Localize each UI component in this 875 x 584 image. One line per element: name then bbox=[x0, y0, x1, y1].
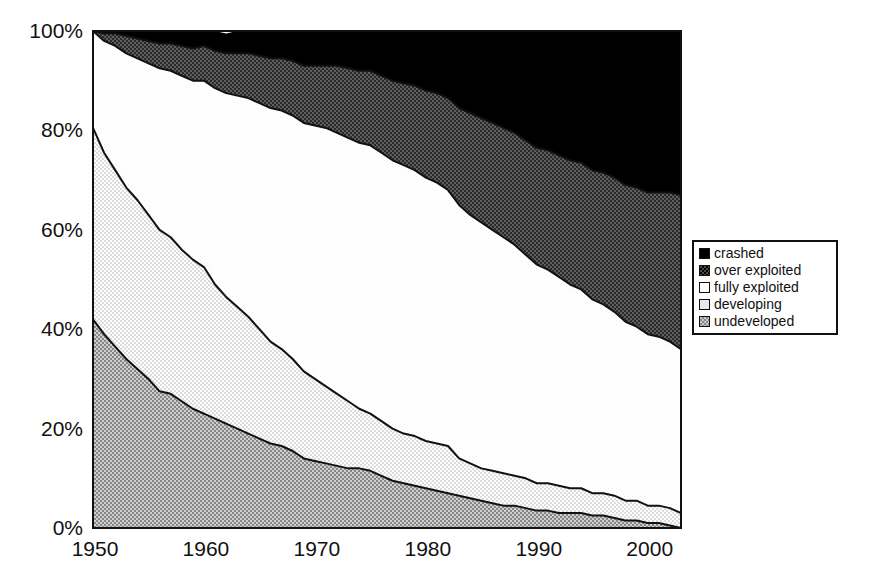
legend-label: crashed bbox=[714, 246, 764, 261]
legend-label: over exploited bbox=[714, 263, 801, 278]
legend-label: developing bbox=[714, 297, 782, 312]
x-axis-tick-label: 1980 bbox=[404, 537, 451, 560]
x-axis-tick-label: 2000 bbox=[626, 537, 673, 560]
y-axis-tick-label: 60% bbox=[41, 218, 83, 241]
area-series-group bbox=[93, 29, 681, 528]
x-axis-tick-label: 1970 bbox=[294, 537, 341, 560]
legend-swatch-over-exploited bbox=[699, 265, 710, 276]
legend-swatch-developing bbox=[699, 299, 710, 310]
legend-label: fully exploited bbox=[714, 280, 799, 295]
y-axis-tick-labels: 0%20%40%60%80%100% bbox=[29, 19, 83, 539]
x-axis-tick-label: 1950 bbox=[72, 537, 119, 560]
y-axis-tick-label: 20% bbox=[41, 417, 83, 440]
y-axis-tick-label: 100% bbox=[29, 19, 83, 42]
chart-legend: crashed over exploited fully exploited d… bbox=[692, 240, 838, 335]
legend-swatch-crashed bbox=[699, 248, 710, 259]
x-axis-tick-label: 1960 bbox=[183, 537, 230, 560]
legend-item[interactable]: developing bbox=[699, 296, 832, 313]
legend-label: undeveloped bbox=[714, 314, 794, 329]
legend-item[interactable]: undeveloped bbox=[699, 313, 832, 330]
legend-item[interactable]: over exploited bbox=[699, 262, 832, 279]
x-axis-tick-labels: 195019601970198019902000 bbox=[72, 537, 673, 560]
legend-item[interactable]: crashed bbox=[699, 245, 832, 262]
y-axis-tick-label: 40% bbox=[41, 317, 83, 340]
y-axis-tick-label: 0% bbox=[53, 516, 83, 539]
legend-item[interactable]: fully exploited bbox=[699, 279, 832, 296]
stacked-area-chart: 0%20%40%60%80%100% 195019601970198019902… bbox=[0, 0, 875, 584]
legend-swatch-undeveloped bbox=[699, 316, 710, 327]
y-axis-tick-label: 80% bbox=[41, 118, 83, 141]
x-axis-tick-label: 1990 bbox=[515, 537, 562, 560]
legend-swatch-fully-exploited bbox=[699, 282, 710, 293]
